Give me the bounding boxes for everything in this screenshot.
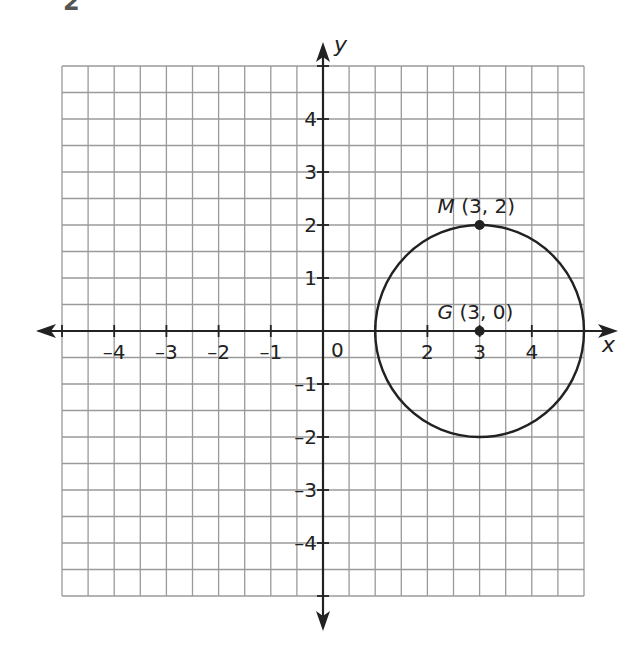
x-tick-label: –3 [155, 340, 178, 364]
x-tick-label: 2 [421, 340, 434, 364]
y-tick-label: 2 [304, 213, 317, 237]
x-tick-label: –2 [207, 340, 230, 364]
x-tick-label: 4 [525, 340, 538, 364]
y-tick-label: 4 [304, 107, 317, 131]
coordinate-plane: –4–3–2–102344321–1–2–3–4yxM (3, 2)G (3, … [0, 0, 639, 663]
y-tick-label: 3 [304, 160, 317, 184]
point-label-m: M (3, 2) [438, 194, 515, 218]
y-tick-label: 1 [304, 266, 317, 290]
x-tick-label: –1 [259, 340, 282, 364]
point-m [475, 220, 485, 230]
y-tick-label: –3 [294, 478, 317, 502]
x-tick-label: –4 [103, 340, 126, 364]
y-tick-label: –2 [294, 425, 317, 449]
x-axis-label: x [601, 332, 616, 357]
point-g [475, 326, 485, 336]
y-tick-label: –4 [294, 531, 317, 555]
y-tick-label: –1 [294, 372, 317, 396]
y-axis-label: y [333, 32, 348, 57]
x-tick-label: 3 [473, 340, 486, 364]
origin-label: 0 [331, 338, 344, 362]
point-label-g: G (3, 0) [438, 300, 514, 324]
